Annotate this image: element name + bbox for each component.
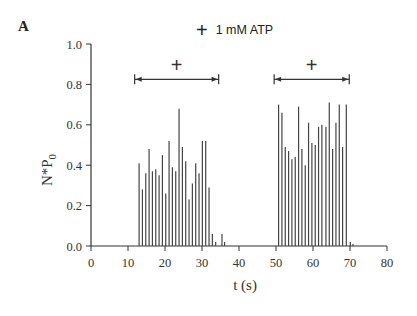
x-tick-label: 80 <box>381 256 394 270</box>
x-tick-label: 10 <box>122 256 135 270</box>
x-tick-label: 60 <box>307 256 320 270</box>
y-tick-label: 0.2 <box>66 199 82 213</box>
x-tick-label: 30 <box>196 256 209 270</box>
y-tick-label: 0.4 <box>66 159 82 173</box>
x-tick-label: 70 <box>344 256 357 270</box>
x-tick-label: 0 <box>88 256 94 270</box>
y-tick-label: 1.0 <box>66 38 82 52</box>
y-tick-label: 0.6 <box>66 118 82 132</box>
x-axis-label: t (s) <box>233 277 257 294</box>
x-tick-label: 20 <box>159 256 172 270</box>
x-tick-label: 40 <box>233 256 246 270</box>
y-tick-label: 0.8 <box>66 78 82 92</box>
bars <box>139 103 353 246</box>
plus-icon: + <box>171 54 183 76</box>
plus-icon: + <box>306 54 318 76</box>
y-axis-label: N*P0 <box>39 153 58 186</box>
axes: 010203040506070800.00.20.40.60.81.0t (s)… <box>39 38 393 295</box>
x-tick-label: 50 <box>270 256 283 270</box>
annotations: ++ <box>135 54 350 84</box>
chart: 010203040506070800.00.20.40.60.81.0t (s)… <box>0 0 417 316</box>
y-tick-label: 0.0 <box>66 240 82 254</box>
